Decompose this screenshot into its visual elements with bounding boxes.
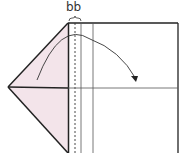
measure-label: bb xyxy=(66,0,81,14)
arrow-head-icon xyxy=(131,76,138,82)
flap-center-line xyxy=(8,87,68,88)
origami-diagram: bb xyxy=(0,0,179,153)
brace-icon xyxy=(69,16,81,21)
fold-diagram-svg xyxy=(0,0,179,153)
